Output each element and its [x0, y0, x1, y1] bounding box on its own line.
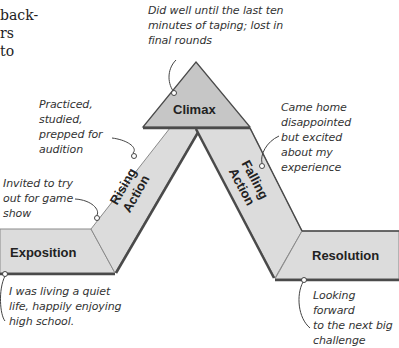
exposition-label: Exposition [10, 245, 77, 260]
resolution-connector [299, 282, 310, 328]
climax-note: Did well until the last ten minutes of t… [148, 3, 283, 48]
exposition-connector [0, 276, 5, 321]
resolution-note-line: to the next big [313, 318, 399, 333]
resolution-label: Resolution [312, 248, 379, 263]
rising-upper-note-line: studied, [39, 112, 103, 127]
falling-note-line: disappointed [281, 115, 351, 130]
falling-connector-dot [260, 164, 265, 169]
rising-lower-connector-dot [95, 216, 100, 221]
resolution-note: Looking forward to the next big challeng… [313, 288, 399, 348]
falling-note-line: about my [281, 145, 351, 160]
climax-label: Climax [173, 102, 216, 117]
climax-note-line: Did well until the last ten [148, 3, 283, 18]
resolution-note-line: challenge [313, 333, 399, 348]
climax-note-line: minutes of taping; lost in [148, 18, 283, 33]
rising-upper-note-line: Practiced, [39, 97, 103, 112]
falling-note-line: but excited [281, 130, 351, 145]
climax-note-line: final rounds [148, 33, 283, 48]
rising-upper-note: Practiced, studied, prepped for audition [39, 97, 103, 157]
falling-note: Came home disappointed but excited about… [281, 100, 351, 175]
resolution-connector-dot [302, 278, 307, 283]
rising-lower-note-line: Invited to try [3, 176, 73, 191]
falling-note-line: experience [281, 160, 351, 175]
rising-lower-note-line: out for game [3, 191, 73, 206]
resolution-note-line: Looking forward [313, 288, 399, 318]
exposition-note-line: life, happily enjoying [9, 299, 121, 314]
climax-triangle [143, 62, 250, 127]
rising-upper-note-line: audition [39, 142, 103, 157]
rising-upper-connector [112, 138, 134, 153]
rising-lower-note: Invited to try out for game show [3, 176, 73, 221]
rising-lower-connector [75, 199, 98, 215]
exposition-note-line: high school. [9, 314, 121, 329]
exposition-connector-dot [3, 272, 8, 277]
rising-lower-note-line: show [3, 206, 73, 221]
rising-upper-connector-dot [132, 154, 137, 159]
exposition-note-line: I was living a quiet [9, 284, 121, 299]
falling-note-line: Came home [281, 100, 351, 115]
exposition-note: I was living a quiet life, happily enjoy… [9, 284, 121, 329]
rising-upper-note-line: prepped for [39, 127, 103, 142]
climax-connector-dot [172, 91, 177, 96]
